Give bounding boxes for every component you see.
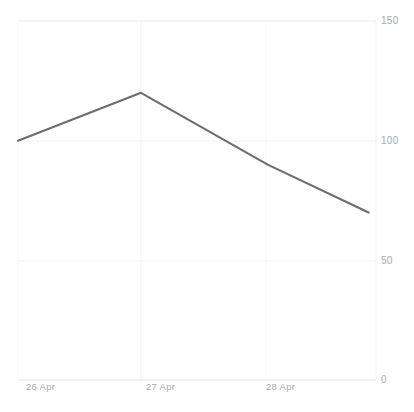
plot-area bbox=[0, 0, 414, 412]
y-tick-label-0: 0 bbox=[381, 375, 387, 385]
y-tick-label-100: 100 bbox=[381, 136, 399, 146]
data-line-series-1 bbox=[18, 93, 369, 213]
x-tick-label-27-apr: 27 Apr bbox=[146, 381, 175, 393]
y-tick-label-150: 150 bbox=[381, 16, 399, 26]
x-tick-label-26-apr: 26 Apr bbox=[26, 381, 55, 393]
vertical-gridlines bbox=[18, 21, 376, 380]
horizontal-gridlines bbox=[18, 21, 376, 380]
x-tick-label-28-apr: 28 Apr bbox=[266, 381, 295, 393]
line-chart: 150 100 50 0 26 Apr 27 Apr 28 Apr bbox=[0, 0, 414, 412]
y-tick-label-50: 50 bbox=[381, 256, 393, 266]
